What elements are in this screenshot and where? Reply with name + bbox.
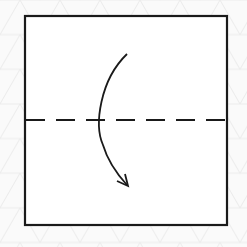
origami-diagram — [0, 0, 247, 247]
